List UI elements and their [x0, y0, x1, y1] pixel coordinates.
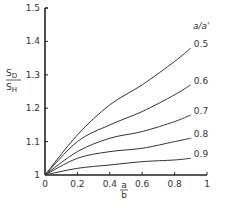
series-label-0.9: 0.9: [194, 149, 209, 159]
x-tick-label: 0: [42, 179, 48, 189]
x-tick-label: 0.8: [167, 179, 182, 189]
series-label-0.5: 0.5: [194, 39, 208, 49]
y-tick-label: 1.2: [26, 103, 40, 113]
x-label-denominator: b: [121, 190, 127, 200]
y-tick-label: 1.5: [26, 3, 40, 13]
curves: [45, 48, 191, 175]
x-tick-label: 0.2: [70, 179, 84, 189]
x-tick-label: 0.4: [103, 179, 118, 189]
y-tick-label: 1.3: [26, 70, 40, 80]
series-labels: 0.50.60.70.80.9: [194, 39, 209, 159]
y-label-denominator: SH: [6, 82, 17, 94]
x-axis-label: a b: [120, 180, 128, 200]
curve-a-ratio-0.8: [45, 138, 191, 175]
x-tick-label: 1: [204, 179, 210, 189]
y-axis-label: SD SH: [6, 68, 21, 94]
series-label-0.8: 0.8: [194, 129, 209, 139]
y-tick-label: 1.4: [26, 36, 41, 46]
y-label-numerator: SD: [6, 68, 17, 80]
curve-a-ratio-0.9: [45, 158, 191, 175]
x-label-numerator: a: [121, 180, 127, 190]
y-tick-label: 1.1: [26, 137, 40, 147]
curve-a-ratio-0.5: [45, 48, 191, 175]
chart-canvas: 11.11.21.31.41.500.20.40.60.81 0.50.60.7…: [0, 0, 227, 208]
ticks: 11.11.21.31.41.500.20.40.60.81: [26, 3, 210, 189]
y-tick-label: 1: [34, 170, 40, 180]
curve-a-ratio-0.6: [45, 85, 191, 175]
curve-a-ratio-0.7: [45, 115, 191, 175]
legend-title: a/a': [193, 21, 210, 31]
series-label-0.6: 0.6: [194, 76, 209, 86]
x-tick-label: 0.6: [135, 179, 150, 189]
series-label-0.7: 0.7: [194, 106, 208, 116]
